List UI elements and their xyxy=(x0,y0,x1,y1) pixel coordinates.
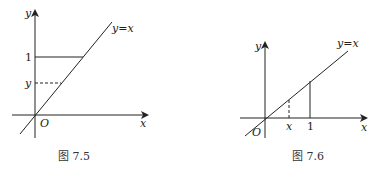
line-y-equals-x xyxy=(245,51,348,136)
tick-label-x: x xyxy=(286,120,293,133)
y-axis-label: y xyxy=(254,40,262,53)
tick-label-1: 1 xyxy=(25,51,32,64)
origin-label: O xyxy=(252,126,261,139)
line-y-equals-x xyxy=(20,22,112,134)
figure-caption: 图 7.6 xyxy=(292,150,324,163)
tick-label-1: 1 xyxy=(307,120,314,133)
line-label: y=x xyxy=(336,37,359,50)
figure-7-6: y x O y=x x 1 图 7.6 xyxy=(240,37,368,163)
x-axis-label: x xyxy=(140,117,147,130)
diagram-canvas: y x O y=x 1 y 图 7.5 y x O y=x x 1 图 7.6 xyxy=(0,0,380,175)
x-axis-label: x xyxy=(361,121,368,134)
origin-label: O xyxy=(40,117,49,130)
tick-label-y: y xyxy=(24,77,32,90)
figure-7-5: y x O y=x 1 y 图 7.5 xyxy=(12,7,147,163)
line-label: y=x xyxy=(111,22,134,35)
figure-caption: 图 7.5 xyxy=(58,150,90,163)
y-axis-label: y xyxy=(24,7,32,20)
